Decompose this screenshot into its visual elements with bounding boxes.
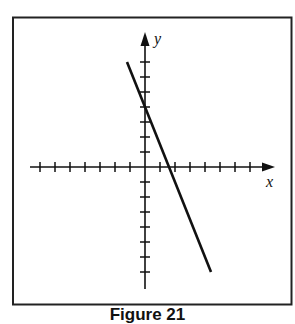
y-axis-label: y [152,30,162,48]
figure-caption: Figure 21 [0,306,295,323]
figure-frame [13,18,292,305]
x-axis [30,162,275,172]
y-axis-arrow-icon [141,32,150,46]
y-axis [140,32,150,289]
x-axis-label: x [265,173,273,190]
x-axis-arrow-icon [262,163,275,172]
